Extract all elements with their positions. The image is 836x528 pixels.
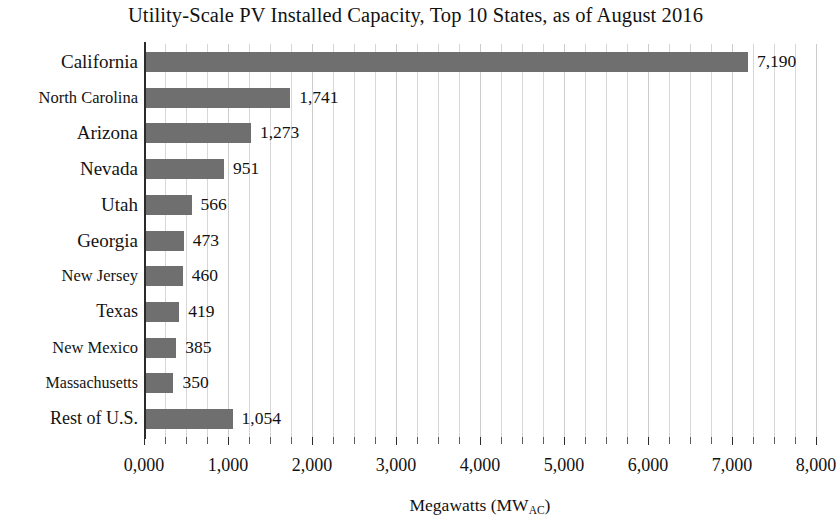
bar-row[interactable]: 419 [144, 302, 816, 322]
x-tick-minor [585, 437, 586, 444]
x-tick-major [144, 437, 145, 445]
bar-value-label: 1,054 [242, 408, 281, 429]
category-label: Texas [0, 301, 138, 322]
x-tick-major [396, 437, 397, 445]
x-tick-minor [627, 437, 628, 444]
x-tick-major [228, 437, 229, 445]
x-tick-label: 3,000 [376, 455, 417, 476]
category-label: Georgia [0, 229, 138, 251]
bar-row[interactable]: 460 [144, 266, 816, 286]
bar[interactable] [144, 409, 233, 429]
bar[interactable] [144, 231, 184, 251]
x-axis-title-tail: ) [545, 495, 551, 515]
x-tick-major [312, 437, 313, 445]
category-label: New Mexico [0, 337, 138, 357]
x-tick-minor [543, 437, 544, 444]
bar-row[interactable]: 1,054 [144, 409, 816, 429]
bar[interactable] [144, 52, 748, 72]
category-label: California [0, 50, 138, 72]
bar-row[interactable]: 951 [144, 159, 816, 179]
x-tick-major [480, 437, 481, 445]
x-tick-minor [501, 437, 502, 444]
x-tick-label: 2,000 [292, 455, 333, 476]
x-tick-minor [753, 437, 754, 444]
x-tick-label: 0,000 [124, 455, 165, 476]
bar-value-label: 460 [192, 265, 218, 286]
x-tick-major [648, 437, 649, 445]
x-tick-minor [795, 437, 796, 444]
x-tick-minor [270, 437, 271, 444]
bar-value-label: 350 [182, 372, 208, 393]
x-axis-title-main: Megawatts (MW [410, 495, 529, 515]
x-tick-label: 1,000 [208, 455, 249, 476]
x-tick-label: 4,000 [460, 455, 501, 476]
bar[interactable] [144, 373, 173, 393]
x-tick-minor [606, 437, 607, 444]
bar[interactable] [144, 123, 251, 143]
category-label: North Carolina [0, 87, 138, 107]
x-tick-minor [711, 437, 712, 444]
bar-row[interactable]: 473 [144, 231, 816, 251]
x-tick-minor [249, 437, 250, 444]
x-tick-minor [690, 437, 691, 444]
bar-value-label: 419 [188, 301, 214, 322]
x-tick-major [732, 437, 733, 445]
x-axis-title: Megawatts (MWAC) [144, 495, 816, 516]
bar[interactable] [144, 88, 290, 108]
bar-row[interactable]: 1,273 [144, 123, 816, 143]
bar-value-label: 1,273 [260, 122, 299, 143]
bar[interactable] [144, 266, 183, 286]
bar-series: 7,1901,7411,2739515664734604193853501,05… [144, 44, 816, 437]
category-label: Nevada [0, 158, 138, 180]
bar-value-label: 385 [185, 337, 211, 358]
y-axis-category-labels: CaliforniaNorth CarolinaArizonaNevadaUta… [0, 44, 138, 437]
x-tick-minor [459, 437, 460, 444]
x-tick-minor [186, 437, 187, 444]
x-tick-minor [165, 437, 166, 444]
bar-row[interactable]: 385 [144, 338, 816, 358]
x-tick-minor [417, 437, 418, 444]
plot-area: 7,1901,7411,2739515664734604193853501,05… [144, 44, 816, 437]
x-axis-title-subscript: AC [529, 504, 545, 516]
bar[interactable] [144, 195, 192, 215]
x-axis-tick-labels: 0,0001,0002,0003,0004,0005,0006,0007,000… [0, 455, 831, 481]
bar-row[interactable]: 350 [144, 373, 816, 393]
bar-value-label: 566 [201, 194, 227, 215]
x-tick-label: 6,000 [628, 455, 669, 476]
chart-title: Utility-Scale PV Installed Capacity, Top… [0, 4, 831, 27]
category-label: Arizona [0, 122, 138, 144]
bar-row[interactable]: 1,741 [144, 88, 816, 108]
bar-row[interactable]: 566 [144, 195, 816, 215]
bar[interactable] [144, 159, 224, 179]
x-tick-minor [333, 437, 334, 444]
bar-value-label: 7,190 [757, 51, 796, 72]
bar-value-label: 473 [193, 230, 219, 251]
x-tick-label: 7,000 [712, 455, 753, 476]
x-tick-minor [774, 437, 775, 444]
category-label: New Jersey [0, 266, 138, 286]
bar-row[interactable]: 7,190 [144, 52, 816, 72]
x-tick-major [816, 437, 817, 445]
x-tick-minor [669, 437, 670, 444]
bar-value-label: 1,741 [299, 87, 338, 108]
x-tick-minor [522, 437, 523, 444]
bar[interactable] [144, 302, 179, 322]
x-tick-minor [207, 437, 208, 444]
bar-value-label: 951 [233, 158, 259, 179]
x-tick-label: 5,000 [544, 455, 585, 476]
x-tick-label: 8,000 [796, 455, 836, 476]
category-label: Massachusetts [0, 374, 138, 392]
x-tick-minor [375, 437, 376, 444]
bar[interactable] [144, 338, 176, 358]
gridline-major [816, 44, 817, 437]
x-tick-minor [438, 437, 439, 444]
category-label: Utah [0, 193, 138, 215]
x-axis-ticks [144, 437, 816, 445]
x-tick-major [564, 437, 565, 445]
category-label: Rest of U.S. [0, 408, 138, 429]
x-tick-minor [354, 437, 355, 444]
x-tick-minor [291, 437, 292, 444]
y-axis-line [144, 42, 146, 439]
